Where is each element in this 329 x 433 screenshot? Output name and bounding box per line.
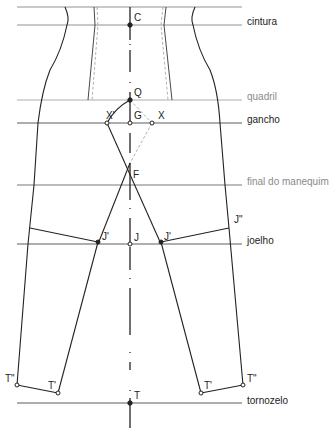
point-label-x-prime: X': [106, 111, 115, 121]
point-c: [128, 23, 132, 27]
point-j-prime-left: [96, 240, 100, 244]
point-t-prime-left: [56, 391, 60, 395]
point-label-x: X: [158, 111, 165, 121]
left-inner-leg: [58, 242, 98, 393]
left-knee-line: [30, 228, 98, 242]
point-x: [150, 121, 154, 125]
x-to-f-dashed: [130, 123, 152, 163]
point-g: [128, 121, 132, 125]
point-t-double-left: [15, 383, 19, 387]
label-gancho: gancho: [247, 115, 280, 125]
label-final-do-manequim: final do manequim: [247, 177, 329, 187]
label-quadril: quadril: [247, 92, 277, 102]
right-inner-leg: [161, 242, 201, 393]
point-label-f: F: [133, 170, 139, 180]
point-j-prime-right: [159, 240, 163, 244]
point-t-prime-right: [199, 391, 203, 395]
point-label-j-prime-left: J': [102, 232, 109, 242]
point-label-j-prime-right: J': [164, 232, 171, 242]
right-outer-contour: [192, 7, 243, 385]
point-label-t-double-left: T": [5, 374, 15, 384]
label-cintura: cintura: [247, 17, 277, 27]
point-t: [128, 401, 132, 405]
point-label-t-prime-right: T': [204, 381, 212, 391]
point-j: [128, 242, 132, 246]
label-joelho: joelho: [247, 236, 274, 246]
point-x-prime: [105, 121, 109, 125]
left-outer-contour: [17, 7, 68, 385]
point-label-t-prime-left: T': [48, 381, 56, 391]
point-label-j-double-prime: J": [234, 215, 243, 225]
point-label-g: G: [134, 111, 142, 121]
point-label-t: T: [134, 391, 140, 401]
point-label-j: J: [134, 233, 139, 243]
point-t-double-right: [241, 383, 245, 387]
label-tornozelo: tornozelo: [247, 396, 288, 406]
point-q: [128, 98, 132, 102]
point-label-c: C: [134, 13, 141, 23]
right-knee-line: [161, 228, 229, 242]
points: [15, 23, 245, 405]
point-label-q: Q: [134, 88, 142, 98]
xprime-to-jprime-right: [107, 123, 161, 244]
point-label-t-double-right: T": [247, 374, 257, 384]
